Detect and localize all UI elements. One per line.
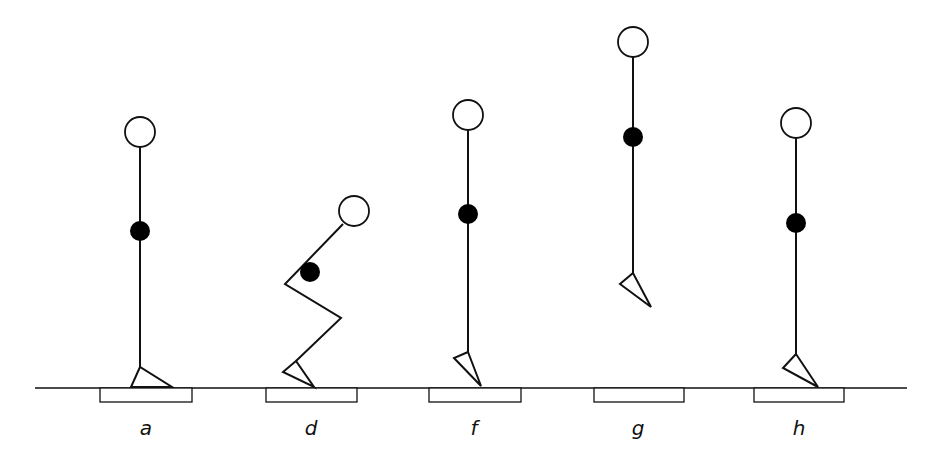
figure-h: h xyxy=(754,108,844,440)
head xyxy=(125,117,155,147)
figure-f: f xyxy=(429,100,521,440)
phase-label: d xyxy=(305,416,318,440)
head xyxy=(339,196,369,226)
force-plate xyxy=(100,388,192,402)
figure-g: g xyxy=(594,27,684,440)
jump-phases-diagram: adfgh xyxy=(0,0,940,462)
force-plate xyxy=(429,388,521,402)
head xyxy=(618,27,648,57)
figure-a: a xyxy=(100,117,192,440)
foot xyxy=(131,367,172,387)
center-of-mass-dot xyxy=(623,127,643,147)
phase-label: h xyxy=(793,416,806,440)
head xyxy=(781,108,811,138)
head xyxy=(453,100,483,130)
force-plate xyxy=(266,388,357,402)
phase-label: a xyxy=(140,416,152,440)
foot xyxy=(620,273,651,307)
center-of-mass-dot xyxy=(300,262,320,282)
foot xyxy=(283,361,314,387)
figure-d: d xyxy=(266,196,369,440)
phase-label: f xyxy=(470,416,480,440)
force-plate xyxy=(754,388,844,402)
foot xyxy=(454,352,481,386)
body-segments xyxy=(285,224,343,361)
force-plate xyxy=(594,388,684,402)
center-of-mass-dot xyxy=(786,213,806,233)
foot xyxy=(783,354,818,387)
center-of-mass-dot xyxy=(130,221,150,241)
phase-label: g xyxy=(632,416,645,440)
center-of-mass-dot xyxy=(458,204,478,224)
